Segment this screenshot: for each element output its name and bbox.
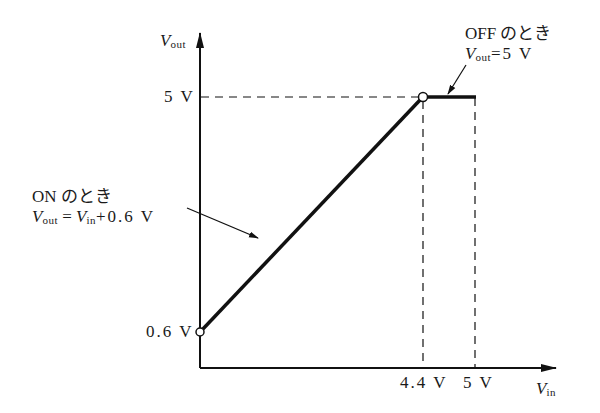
point-0-6v — [196, 328, 204, 336]
y-axis-label: Vout — [160, 32, 186, 51]
x-tick-4-4v: 4.4 V — [400, 374, 447, 392]
on-eq-tail: +0.6 V — [96, 207, 155, 226]
x-tick-5v: 5 V — [463, 374, 494, 392]
on-eq-lhs-symbol: V — [32, 207, 42, 226]
on-region-line — [202, 100, 420, 330]
y-tick-5v: 5 V — [164, 88, 195, 106]
x-axis-label: Vin — [536, 380, 556, 399]
off-leader-arrow — [448, 65, 466, 94]
off-eq-lhs-sub: out — [475, 51, 491, 63]
on-annotation-title: ON のとき — [32, 188, 112, 206]
off-annotation-equation: Vout=5 V — [465, 45, 533, 64]
on-eq-equals: = — [58, 207, 76, 226]
y-tick-0-6v: 0.6 V — [146, 323, 193, 341]
off-annotation-title: OFF のとき — [465, 25, 551, 43]
point-4-4v-5v — [419, 93, 428, 102]
x-axis-symbol: V — [536, 379, 546, 398]
on-leader-arrow — [187, 208, 258, 238]
on-eq-rhs-symbol: V — [76, 207, 86, 226]
on-eq-rhs-sub: in — [86, 214, 96, 226]
off-eq-tail: =5 V — [491, 44, 533, 63]
y-axis-subscript: out — [170, 38, 186, 50]
on-annotation-equation: Vout = Vin+0.6 V — [32, 208, 155, 227]
y-axis-symbol: V — [160, 31, 170, 50]
x-axis-subscript: in — [546, 386, 556, 398]
off-eq-lhs-symbol: V — [465, 44, 475, 63]
on-eq-lhs-sub: out — [42, 214, 58, 226]
